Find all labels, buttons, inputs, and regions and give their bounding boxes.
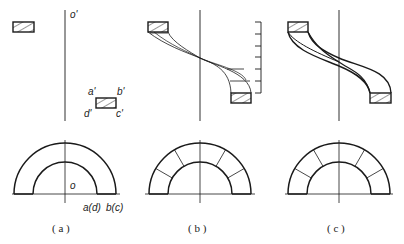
cross-section-top <box>13 22 34 32</box>
label-a-prime: a' <box>88 86 97 97</box>
helix-outer-curve <box>148 32 231 93</box>
caption-b: ( b ) <box>188 222 207 235</box>
label-d-prime: d' <box>84 108 93 119</box>
helix-outer-curve <box>288 32 370 93</box>
helix-inner-curve <box>168 32 251 93</box>
label-b-c: b(c) <box>106 202 123 213</box>
label-o: o <box>70 180 76 191</box>
panel-b: ( b ) <box>145 10 261 235</box>
label-c-prime: c' <box>116 108 124 119</box>
panel-c: ( c ) <box>285 10 393 235</box>
cross-section-lower <box>96 98 116 108</box>
cross-section-top <box>288 22 308 32</box>
label-a-d: a(d) <box>83 202 101 213</box>
cross-section-bottom <box>370 93 391 103</box>
height-scale <box>255 22 261 93</box>
panel-a: o' a' b' d' c' o a(d) b(c) ( a ) <box>12 9 126 235</box>
caption-c: ( c ) <box>327 222 345 235</box>
cross-section-top <box>148 22 168 32</box>
helical-projection-diagram: o' a' b' d' c' o a(d) b(c) ( a ) <box>0 0 404 244</box>
label-b-prime: b' <box>117 86 126 97</box>
label-o-prime: o' <box>70 9 79 20</box>
cross-section-bottom <box>231 93 251 103</box>
caption-a: ( a ) <box>52 222 70 235</box>
helix-inner-curve <box>308 32 391 93</box>
